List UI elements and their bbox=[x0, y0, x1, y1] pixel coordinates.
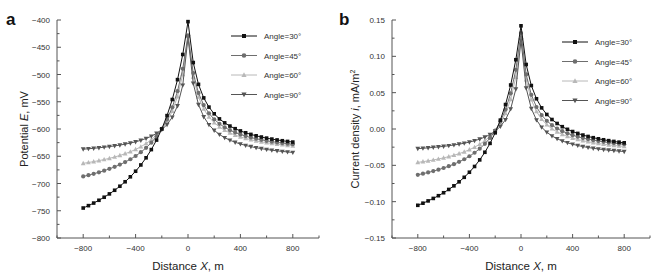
y-tick-label: 0.10 bbox=[369, 52, 385, 61]
chart-b: 0.150.100.050.00−0.05−0.10−0.15−800−4000… bbox=[331, 0, 663, 280]
y-tick-label: −0.10 bbox=[365, 198, 386, 207]
x-tick-label: 0 bbox=[519, 244, 524, 253]
y-tick-label: −500 bbox=[32, 71, 51, 80]
y-tick-label: −650 bbox=[32, 152, 51, 161]
y-tick-label: −0.15 bbox=[365, 234, 386, 243]
legend-label: Angle=90° bbox=[264, 91, 301, 100]
x-tick-label: −800 bbox=[74, 244, 93, 253]
x-tick-label: −400 bbox=[127, 244, 146, 253]
y-tick-label: −600 bbox=[32, 125, 51, 134]
legend-item-45: Angle=45° bbox=[562, 58, 632, 67]
x-tick-label: −800 bbox=[409, 244, 428, 253]
panel-b: b 0.150.100.050.00−0.05−0.10−0.15−800−40… bbox=[331, 0, 662, 280]
y-tick-label: −800 bbox=[32, 234, 51, 243]
y-axis-label: Current density i, mA/m2 bbox=[349, 69, 361, 188]
y-tick-label: 0.00 bbox=[369, 125, 385, 134]
x-tick-label: −400 bbox=[460, 244, 479, 253]
legend-label: Angle=30° bbox=[595, 38, 632, 47]
y-tick-label: −400 bbox=[32, 16, 51, 25]
panel-a: a −400−450−500−550−600−650−700−750−800−8… bbox=[0, 0, 331, 280]
legend-label: Angle=60° bbox=[595, 77, 632, 86]
x-tick-label: 0 bbox=[186, 244, 191, 253]
legend-label: Angle=45° bbox=[595, 58, 632, 67]
y-tick-label: 0.15 bbox=[369, 16, 385, 25]
legend-item-45: Angle=45° bbox=[231, 52, 301, 61]
legend-item-30: Angle=30° bbox=[562, 38, 632, 47]
legend-item-90: Angle=90° bbox=[562, 97, 632, 106]
x-tick-label: 400 bbox=[234, 244, 248, 253]
legend-item-60: Angle=60° bbox=[562, 77, 632, 86]
y-tick-label: −700 bbox=[32, 180, 51, 189]
y-tick-label: −750 bbox=[32, 207, 51, 216]
y-tick-label: 0.05 bbox=[369, 89, 385, 98]
chart-a: −400−450−500−550−600−650−700−750−800−800… bbox=[0, 0, 331, 280]
legend-item-60: Angle=60° bbox=[231, 71, 301, 80]
y-tick-label: −450 bbox=[32, 43, 51, 52]
x-tick-label: 800 bbox=[286, 244, 300, 253]
x-tick-label: 800 bbox=[618, 244, 632, 253]
y-tick-label: −550 bbox=[32, 98, 51, 107]
y-axis-label: Potential E, mV bbox=[18, 90, 30, 166]
x-axis-label: Distance X, m bbox=[485, 260, 557, 272]
series-45-deg bbox=[81, 33, 295, 178]
series-30-deg bbox=[416, 24, 626, 207]
legend-label: Angle=90° bbox=[595, 97, 632, 106]
legend-item-30: Angle=30° bbox=[231, 32, 301, 41]
y-tick-label: −0.05 bbox=[365, 161, 386, 170]
legend-label: Angle=45° bbox=[264, 52, 301, 61]
legend-item-90: Angle=90° bbox=[231, 91, 301, 100]
x-axis-label: Distance X, m bbox=[152, 260, 224, 272]
x-tick-label: 400 bbox=[566, 244, 580, 253]
series-30-deg bbox=[81, 20, 294, 210]
legend-label: Angle=60° bbox=[264, 71, 301, 80]
legend-label: Angle=30° bbox=[264, 32, 301, 41]
